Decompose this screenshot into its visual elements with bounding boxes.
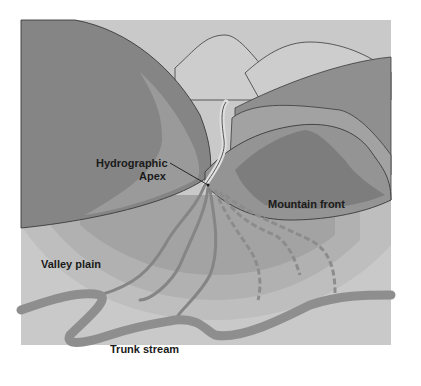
- label-trunk-stream: Trunk stream: [110, 343, 179, 355]
- alluvial-fan-diagram: [0, 0, 421, 386]
- label-mountain-front: Mountain front: [268, 198, 345, 210]
- label-valley-plain: Valley plain: [41, 258, 101, 270]
- label-hydrographic-apex-line2: Apex: [96, 170, 166, 182]
- apex-point: [207, 184, 210, 187]
- label-hydrographic-apex-line1: Hydrographic: [96, 157, 166, 169]
